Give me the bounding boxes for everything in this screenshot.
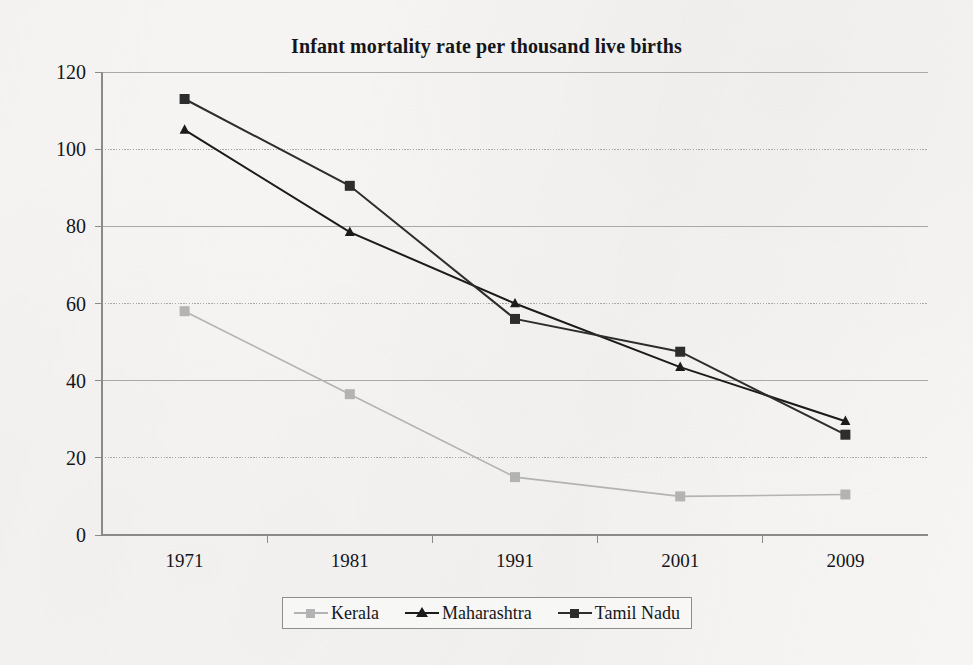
x-tick-label: 2009	[826, 550, 864, 571]
data-point-marker	[510, 472, 520, 482]
legend-label: Kerala	[331, 603, 379, 624]
data-point-marker	[345, 389, 355, 399]
x-tick-label: 2001	[661, 550, 699, 571]
x-tick-label: 1971	[166, 550, 204, 571]
data-point-marker	[180, 94, 190, 104]
legend-entry-maharashtra[interactable]: Maharashtra	[405, 603, 532, 624]
legend-marker-icon	[558, 606, 592, 620]
chart-legend: KeralaMaharashtraTamil Nadu	[282, 597, 692, 629]
x-tick-marks	[95, 72, 763, 543]
y-tick-labels: 020406080100120	[56, 61, 86, 546]
legend-label: Tamil Nadu	[595, 603, 680, 624]
y-tick-label: 0	[76, 524, 86, 546]
series-line	[185, 130, 846, 421]
y-tick-label: 20	[66, 447, 86, 469]
y-tick-label: 120	[56, 61, 86, 83]
data-point-marker	[840, 489, 850, 499]
plot-area: 020406080100120 19711981199120012009	[0, 0, 973, 665]
series-kerala	[180, 306, 851, 501]
x-tick-label: 1991	[496, 550, 534, 571]
data-point-marker	[345, 181, 355, 191]
series-line	[185, 311, 846, 496]
data-point-marker	[675, 491, 685, 501]
data-point-marker	[180, 306, 190, 316]
y-tick-label: 40	[66, 370, 86, 392]
data-point-marker	[675, 347, 685, 357]
legend-entry-tamil-nadu[interactable]: Tamil Nadu	[558, 603, 680, 624]
line-chart-figure: Infant mortality rate per thousand live …	[0, 0, 973, 665]
data-point-marker	[510, 314, 520, 324]
y-tick-label: 80	[66, 215, 86, 237]
data-series-layer	[180, 94, 851, 501]
data-point-marker	[345, 227, 355, 236]
legend-entry-kerala[interactable]: Kerala	[294, 603, 379, 624]
y-tick-label: 60	[66, 293, 86, 315]
legend-marker-icon	[294, 606, 328, 620]
x-tick-label: 1981	[331, 550, 369, 571]
data-point-marker	[840, 430, 850, 440]
series-tamil-nadu	[180, 94, 851, 440]
y-tick-label: 100	[56, 138, 86, 160]
series-maharashtra	[180, 124, 851, 425]
x-tick-labels: 19711981199120012009	[166, 550, 865, 571]
data-point-marker	[180, 124, 190, 133]
legend-marker-icon	[405, 606, 439, 620]
legend-label: Maharashtra	[442, 603, 532, 624]
